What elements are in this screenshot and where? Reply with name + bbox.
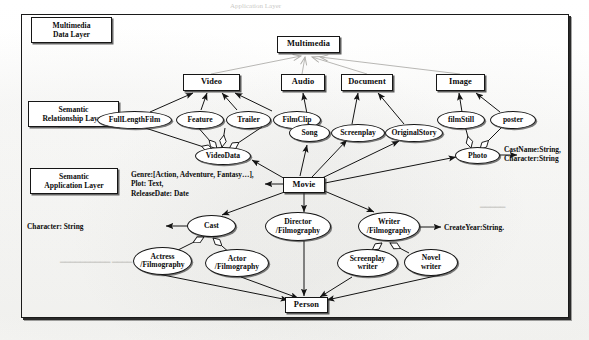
node-audio[interactable]: Audio (281, 74, 325, 91)
node-fulllengthfilm[interactable]: FullLengthFilm (97, 111, 172, 129)
node-song[interactable]: Song (289, 124, 330, 142)
node-novelwriter[interactable]: Novel writer (404, 249, 458, 276)
attribute-writer: CreateYear:String. (444, 223, 504, 232)
node-label: filmStill (448, 116, 474, 124)
scan-artifact: ▁▁▁▁▁ (480, 200, 505, 208)
node-trailer[interactable]: Trailer (226, 111, 271, 129)
node-label: OriginalStory (391, 129, 436, 137)
node-photo[interactable]: Photo (455, 147, 500, 164)
node-actress[interactable]: Actress /Filmography (133, 247, 192, 275)
node-label: Audio (292, 78, 314, 87)
attribute-cast: Character: String (27, 222, 83, 231)
node-screenplay[interactable]: Screenplay (331, 124, 385, 142)
node-label: Novel writer (421, 254, 441, 270)
node-screenplaywriter[interactable]: Screenplay writer (337, 249, 398, 277)
node-label: Cast (204, 222, 219, 230)
node-label: Image (449, 78, 472, 87)
node-label: Writer /Filmography (367, 218, 411, 234)
node-multimedia[interactable]: Multimedia (277, 36, 340, 53)
layer-label-text: Semantic Application Layer (44, 172, 103, 191)
node-person[interactable]: Person (285, 297, 328, 313)
node-originalstory[interactable]: OriginalStory (385, 124, 443, 142)
node-movie[interactable]: Movie (283, 177, 325, 193)
node-label: Document (348, 78, 386, 87)
node-videodata[interactable]: VideoData (195, 147, 251, 165)
node-label: Actress /Filmography (140, 253, 184, 269)
node-label: Movie (293, 181, 316, 190)
node-label: Actor /Filmography (215, 255, 259, 271)
node-director[interactable]: Director /Filmography (265, 212, 331, 241)
layer-label-semantic-application: Semantic Application Layer (30, 168, 118, 194)
node-label: Screenplay writer (350, 255, 386, 271)
node-label: Song (301, 129, 317, 137)
node-label: Photo (468, 152, 487, 160)
diagram-canvas: Application Layer ▁▁▁▁ ▁▁▁ ▁▁▁▁▁▁▁▁▁▁ ▁▁… (0, 0, 589, 340)
node-cast[interactable]: Cast (187, 215, 236, 237)
node-label: poster (503, 116, 523, 124)
node-feature[interactable]: Feature (176, 111, 224, 129)
node-label: FilmClip (282, 116, 311, 124)
attribute-photo: CastName:String, Character:String (504, 145, 561, 164)
node-label: Feature (187, 116, 212, 124)
layer-label-multimedia-data: Multimedia Data Layer (31, 17, 112, 43)
scan-artifact: Application Layer (230, 2, 281, 10)
node-label: Trailer (237, 116, 260, 124)
node-document[interactable]: Document (341, 74, 393, 91)
node-label: Person (294, 301, 319, 310)
layer-label-text: Semantic Relationship Layer (42, 105, 104, 124)
layer-label-text: Multimedia Data Layer (53, 21, 91, 40)
node-image[interactable]: Image (436, 74, 485, 91)
node-label: Screenplay (340, 129, 376, 137)
node-label: Video (201, 78, 222, 87)
node-writer[interactable]: Writer /Filmography (358, 212, 420, 241)
node-video[interactable]: Video (183, 74, 240, 91)
node-label: Multimedia (287, 40, 330, 49)
node-label: VideoData (206, 152, 240, 160)
node-label: Director /Filmography (276, 218, 320, 234)
node-label: FullLengthFilm (109, 116, 160, 124)
scan-artifact: ▁▁▁▁▁▁▁▁▁▁ ▁▁▁▁ (60, 255, 132, 263)
node-filmstill[interactable]: filmStill (437, 111, 485, 129)
node-poster[interactable]: poster (490, 111, 536, 129)
attribute-movie: Genre:[Action, Adventure, Fantasy…], Plo… (131, 170, 254, 198)
node-actor[interactable]: Actor /Filmography (205, 249, 269, 277)
